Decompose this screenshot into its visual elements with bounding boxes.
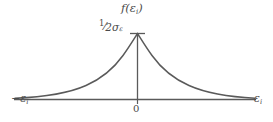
x-axis-left-label-subscript: i (26, 98, 28, 106)
curve-label-text: f(ε (121, 1, 136, 15)
peak-height-fraction: 1⁄2σε (99, 19, 123, 33)
peak-height-label: 1⁄2σε (99, 19, 123, 33)
density-curve-right (138, 34, 256, 99)
fraction-denominator-subscript: ε (119, 25, 123, 33)
x-axis-right-label-subscript: i (260, 98, 262, 106)
x-axis-left-label: −εi (11, 93, 28, 105)
origin-label: 0 (133, 104, 139, 114)
fraction-denominator: 2σ (105, 21, 119, 33)
laplace-density-figure: f(εi) 1⁄2σε −εi εi 0 (0, 0, 273, 122)
curve-label: f(εi) (121, 3, 143, 15)
density-curve-left (15, 34, 138, 99)
curve-label-close: ) (138, 1, 143, 15)
x-axis-right-label: εi (254, 93, 262, 105)
x-axis-left-label-text: −ε (11, 92, 26, 105)
